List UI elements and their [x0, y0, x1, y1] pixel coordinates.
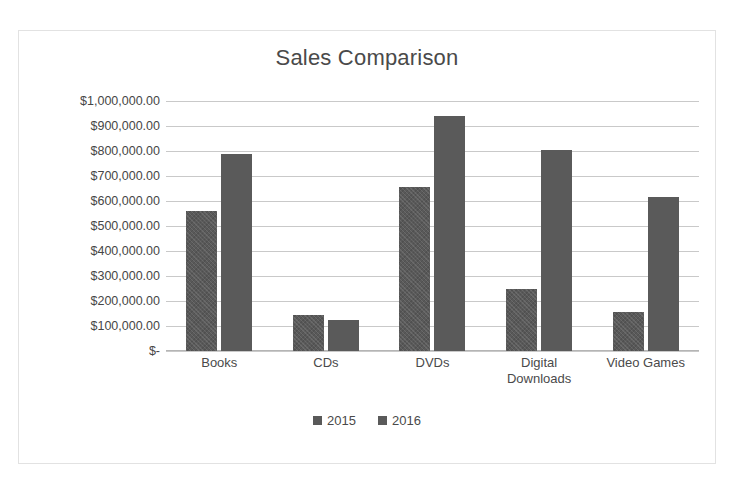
chart-container: Sales Comparison $1,000,000.00$900,000.0… [18, 30, 716, 464]
legend-swatch-icon [378, 416, 387, 425]
y-axis-tick-label: $700,000.00 [90, 169, 160, 183]
x-axis-tick-label: Video Games [592, 355, 699, 388]
bar-2015[interactable] [399, 187, 430, 351]
bar-group [379, 101, 486, 351]
y-axis-tick-label: $- [149, 344, 160, 358]
gridline [166, 351, 699, 352]
bar-group [592, 101, 699, 351]
y-axis-tick-label: $800,000.00 [90, 144, 160, 158]
bar-2015[interactable] [613, 312, 644, 351]
x-axis-labels: BooksCDsDVDsDigital DownloadsVideo Games [166, 355, 699, 388]
legend-item-2015[interactable]: 2015 [313, 413, 356, 428]
y-axis-tick-label: $400,000.00 [90, 244, 160, 258]
x-axis-tick-label: Digital Downloads [486, 355, 593, 388]
bar-2015[interactable] [293, 315, 324, 351]
bar-2015[interactable] [186, 211, 217, 351]
y-axis-tick-label: $100,000.00 [90, 319, 160, 333]
bar-2016[interactable] [328, 320, 359, 351]
plot-area [166, 101, 699, 351]
y-axis-labels: $1,000,000.00$900,000.00$800,000.00$700,… [19, 101, 160, 351]
x-axis-tick-label: DVDs [379, 355, 486, 388]
y-axis-tick-label: $600,000.00 [90, 194, 160, 208]
chart-legend: 20152016 [19, 413, 715, 428]
bar-group [166, 101, 273, 351]
legend-label: 2016 [392, 413, 421, 428]
legend-swatch-icon [313, 416, 322, 425]
chart-title: Sales Comparison [19, 45, 715, 71]
legend-item-2016[interactable]: 2016 [378, 413, 421, 428]
bar-2015[interactable] [506, 289, 537, 352]
x-axis-tick-label: Books [166, 355, 273, 388]
bar-2016[interactable] [541, 150, 572, 351]
bar-group [486, 101, 593, 351]
bar-group [273, 101, 380, 351]
y-axis-tick-label: $900,000.00 [90, 119, 160, 133]
y-axis-tick-label: $300,000.00 [90, 269, 160, 283]
y-axis-tick-label: $200,000.00 [90, 294, 160, 308]
y-axis-tick-label: $500,000.00 [90, 219, 160, 233]
bar-groups [166, 101, 699, 351]
legend-label: 2015 [327, 413, 356, 428]
bar-2016[interactable] [434, 116, 465, 351]
bar-2016[interactable] [648, 197, 679, 351]
x-axis-tick-label: CDs [273, 355, 380, 388]
bar-2016[interactable] [221, 154, 252, 352]
y-axis-tick-label: $1,000,000.00 [80, 94, 160, 108]
